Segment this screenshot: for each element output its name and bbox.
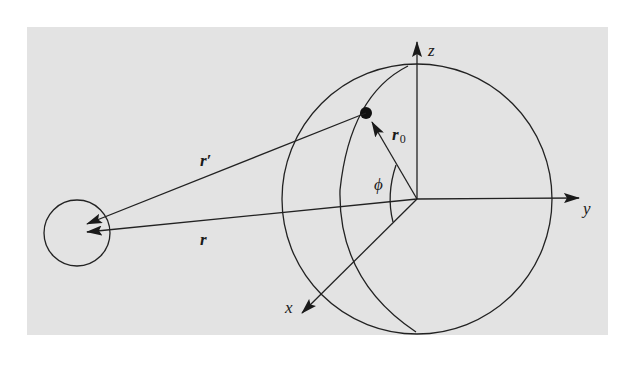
figure-panel <box>27 27 608 335</box>
phi-label: ϕ <box>374 175 383 194</box>
z-axis-label: z <box>427 41 435 60</box>
y-axis-label: y <box>581 199 591 218</box>
r-prime-label: r′ <box>200 151 211 170</box>
diagram-canvas: z y x r′ r r0 ϕ <box>0 0 641 366</box>
x-axis-label: x <box>284 298 293 317</box>
r0-label-main: r <box>392 125 399 144</box>
r-label: r <box>200 230 207 249</box>
r0-label-subscript: 0 <box>400 132 406 146</box>
